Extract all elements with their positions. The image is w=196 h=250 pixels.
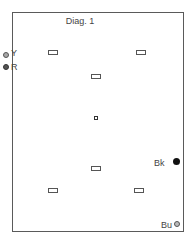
marker-bu-label: Bu bbox=[161, 220, 172, 230]
marker-bu-icon bbox=[174, 221, 180, 227]
marker-r-label: R bbox=[11, 62, 18, 72]
marker-y-label: Y bbox=[11, 48, 17, 58]
rect-upper-center bbox=[91, 74, 101, 79]
marker-y-icon bbox=[3, 52, 9, 58]
marker-bk-icon bbox=[173, 158, 180, 165]
rect-top-left bbox=[48, 50, 58, 55]
center-point bbox=[94, 116, 98, 120]
rect-bottom-left bbox=[48, 188, 58, 193]
diagram-title: Diag. 1 bbox=[0, 16, 160, 26]
rect-top-right bbox=[136, 50, 146, 55]
rect-bottom-right bbox=[134, 188, 144, 193]
marker-r-icon bbox=[3, 64, 9, 70]
marker-bk-label: Bk bbox=[154, 158, 165, 168]
diagram-frame bbox=[12, 12, 184, 232]
rect-lower-center bbox=[91, 166, 101, 171]
